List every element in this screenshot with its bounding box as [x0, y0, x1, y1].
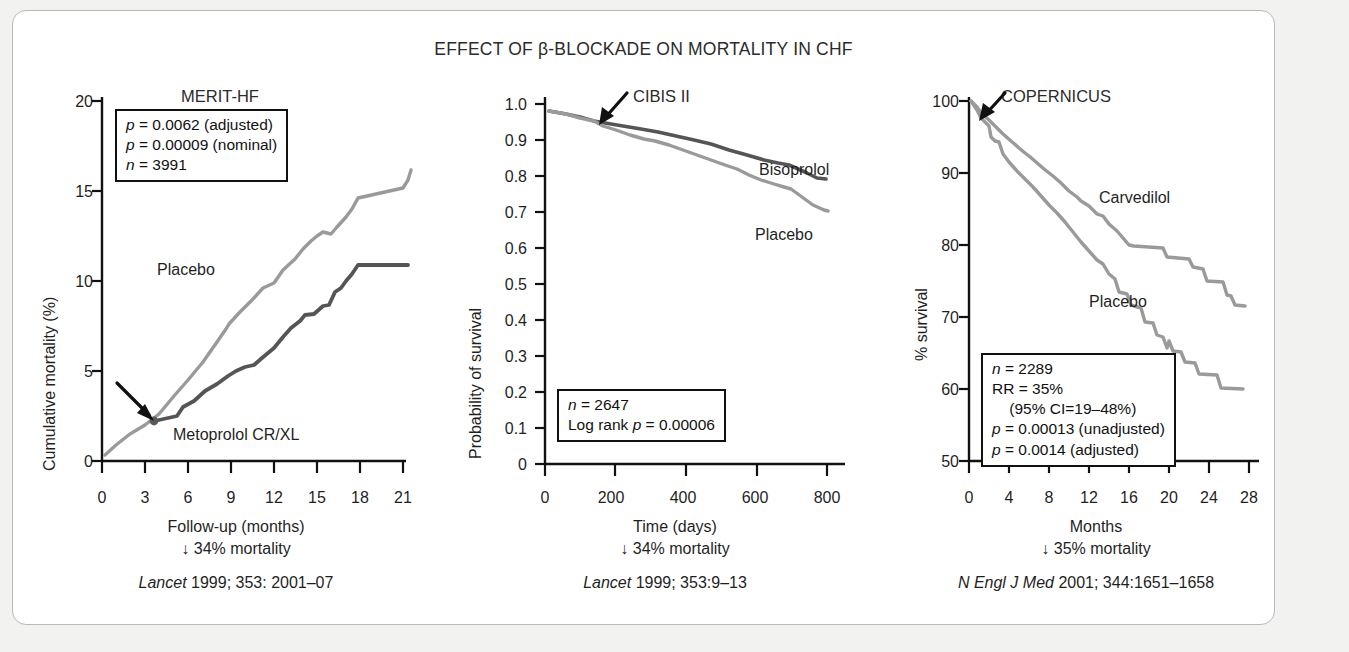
stat-line: n = 2647 [568, 395, 715, 415]
stat-value: (95% CI=19–48%) [992, 400, 1136, 417]
x-axis-title-merit-hf: Follow-up (months) [21, 518, 451, 536]
stat-value: = 0.0062 (adjusted) [135, 116, 273, 133]
x-axis-title-cibis-ii: Time (days) [475, 518, 875, 536]
stats-box-merit-hf: p = 0.0062 (adjusted) p = 0.00009 (nomin… [115, 109, 288, 182]
divergence-arrow-icon [979, 93, 1005, 121]
series-label-carvedilol: Carvedilol [1099, 189, 1170, 207]
stat-line: p = 0.0014 (adjusted) [992, 440, 1165, 460]
stat-line: (95% CI=19–48%) [992, 399, 1165, 419]
series-line-placebo [105, 170, 411, 455]
series-label-placebo: Placebo [1089, 293, 1147, 311]
citation-detail: 1999; 353: 2001–07 [187, 574, 334, 591]
stat-line: Log rank p = 0.00006 [568, 415, 715, 435]
citation-journal: Lancet [139, 574, 187, 591]
mortality-note-cibis-ii: ↓ 34% mortality [475, 540, 875, 558]
divergence-arrow-icon [599, 93, 627, 125]
stat-symbol: p [992, 420, 1001, 437]
stat-symbol: p [992, 441, 1001, 458]
citation-journal: N Engl J Med [958, 574, 1054, 591]
stat-line: p = 0.00013 (unadjusted) [992, 419, 1165, 439]
stat-value: = 2289 [1001, 360, 1053, 377]
mortality-note-copernicus: ↓ 35% mortality [901, 540, 1291, 558]
stat-line: n = 3991 [126, 155, 277, 175]
figure-frame: EFFECT OF β-BLOCKADE ON MORTALITY IN CHF… [12, 10, 1275, 625]
plot-area-cibis-ii [445, 71, 875, 531]
stat-symbol: p [126, 116, 135, 133]
citation-cibis-ii: Lancet 1999; 353:9–13 [455, 574, 875, 592]
figure-title: EFFECT OF β-BLOCKADE ON MORTALITY IN CHF [13, 39, 1274, 60]
stats-box-copernicus: n = 2289 RR = 35% (95% CI=19–48%) p = 0.… [981, 353, 1176, 467]
stat-line: RR = 35% [992, 379, 1165, 399]
citation-detail: 1999; 353:9–13 [631, 574, 747, 591]
series-label-metoprolol: Metoprolol CR/XL [173, 426, 299, 444]
series-label-placebo: Placebo [755, 226, 813, 244]
citation-copernicus: N Engl J Med 2001; 344:1651–1658 [881, 574, 1291, 592]
series-line-placebo [971, 101, 1243, 389]
citation-detail: 2001; 344:1651–1658 [1054, 574, 1214, 591]
citation-journal: Lancet [583, 574, 631, 591]
citation-merit-hf: Lancet 1999; 353: 2001–07 [21, 574, 451, 592]
series-label-bisoprolol: Bisoprolol [759, 161, 829, 179]
panel-cibis-ii: CIBIS II Probability of survival 1.0 0.9… [445, 71, 875, 631]
x-axis-title-copernicus: Months [901, 518, 1291, 536]
stat-value: = 0.00006 [641, 416, 715, 433]
stat-symbol: p [633, 416, 642, 433]
stat-value: = 2647 [577, 396, 629, 413]
panel-copernicus: COPERNICUS % survival 100 90 80 70 60 50… [891, 71, 1291, 631]
stat-symbol: p [126, 136, 135, 153]
stat-value: = 0.00013 (unadjusted) [1001, 420, 1165, 437]
stat-value: = 0.00009 (nominal) [135, 136, 278, 153]
stat-symbol: n [568, 396, 577, 413]
stat-line: p = 0.00009 (nominal) [126, 135, 277, 155]
stat-value: = 3991 [135, 156, 187, 173]
stat-line: n = 2289 [992, 359, 1165, 379]
series-line-metoprolol [154, 265, 408, 421]
divergence-arrow-icon [117, 383, 154, 421]
stat-line: p = 0.0062 (adjusted) [126, 115, 277, 135]
stat-value: = 0.0014 (adjusted) [1001, 441, 1139, 458]
mortality-note-merit-hf: ↓ 34% mortality [21, 540, 451, 558]
stat-symbol: n [126, 156, 135, 173]
stats-box-cibis-ii: n = 2647 Log rank p = 0.00006 [557, 389, 726, 442]
series-label-placebo: Placebo [157, 261, 215, 279]
panel-merit-hf: MERIT-HF Cumulative mortality (%) 20 15 … [21, 71, 451, 631]
stat-prefix: Log rank [568, 416, 633, 433]
stat-value: RR = 35% [992, 380, 1063, 397]
stat-symbol: n [992, 360, 1001, 377]
